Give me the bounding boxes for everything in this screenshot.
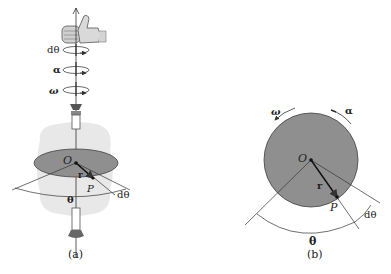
right-hand-icon <box>62 15 106 43</box>
diagram-canvas: dθ α ω O r <box>0 0 391 274</box>
center-point-a <box>74 161 78 165</box>
omega-rotation-icon <box>63 82 89 96</box>
dtheta-rotation-icon <box>63 44 89 56</box>
omega-label-a: ω <box>49 85 59 96</box>
radius-label-b: r <box>317 180 323 191</box>
theta-arc-b <box>257 214 355 233</box>
dtheta-label-b: dθ <box>364 209 376 220</box>
point-p-b <box>335 195 339 199</box>
center-label-b: O <box>298 152 307 165</box>
dtheta-label-a-angle: dθ <box>117 189 129 200</box>
center-point-b <box>309 158 313 162</box>
alpha-rotation-icon <box>63 62 89 76</box>
point-label-a: P <box>86 183 94 194</box>
point-label-b: P <box>329 201 338 214</box>
dtheta-label-a: dθ <box>47 44 59 55</box>
omega-label-b: ω <box>271 106 281 117</box>
caption-a: (a) <box>68 248 83 261</box>
radius-label-a: r <box>78 170 83 180</box>
caption-b: (b) <box>307 248 323 261</box>
alpha-label-a: α <box>53 64 61 75</box>
center-label-a: O <box>63 154 72 167</box>
point-p-a <box>91 176 94 179</box>
upper-bearing-icon <box>70 104 82 129</box>
figure-b: ω α O r P dθ θ (b) <box>245 105 380 261</box>
theta-label-a: θ <box>67 194 74 205</box>
alpha-label-b: α <box>345 105 353 116</box>
rotation-kinematics-figure: dθ α ω O r <box>0 0 391 274</box>
figure-a: dθ α ω O r <box>12 8 130 261</box>
theta-label-b: θ <box>309 235 316 248</box>
